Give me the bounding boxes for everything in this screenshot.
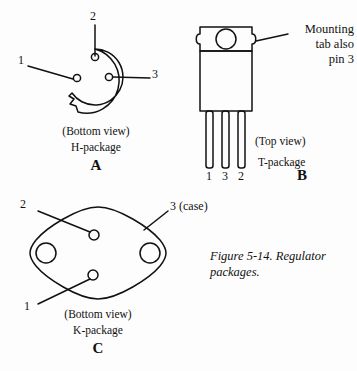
k-package-mounting-hole-right (140, 243, 160, 263)
t-package-note-line3: pin 3 (212, 52, 354, 68)
h-package-leader-3 (113, 77, 150, 78)
regulator-packages-figure: 2 1 3 (Bottom view) H-package A Mounting… (0, 0, 357, 371)
t-package-lead-2-label: 2 (238, 170, 244, 183)
t-package-lead-3 (222, 111, 229, 168)
h-package-pin-1-hole (73, 74, 80, 81)
k-package-name-label: K-package (0, 324, 196, 337)
figure-caption-line1: Figure 5-14. Regulator (210, 248, 326, 264)
t-package-note-line2: tab also (212, 37, 354, 53)
k-package-mounting-hole-left (36, 243, 56, 263)
t-package-note-line1: Mounting (212, 22, 354, 38)
k-package-pin-3-label: 3 (case) (170, 200, 208, 213)
h-package-letter: A (0, 157, 192, 174)
k-package-letter: C (0, 340, 196, 357)
h-package-pin-3-hole (105, 73, 112, 80)
h-package-drawing (28, 25, 150, 113)
k-package-pin-2-label: 2 (20, 198, 26, 211)
k-package-leader-1 (38, 279, 90, 304)
k-package-leader-3 (144, 211, 168, 230)
t-package-letter: B (297, 167, 307, 184)
figure-caption-line2: packages. (210, 264, 260, 280)
k-package-leader-2 (38, 211, 90, 232)
h-package-pin-2-label: 2 (90, 10, 96, 23)
t-package-lead-2 (238, 111, 245, 168)
t-package-view-label: (Top view) (255, 135, 306, 148)
t-package-lead-3-label: 3 (222, 170, 228, 183)
t-package-lead-1-label: 1 (206, 170, 212, 183)
k-package-drawing (30, 207, 168, 304)
h-package-view-label: (Bottom view) (0, 125, 192, 138)
h-package-name-label: H-package (0, 141, 192, 154)
h-package-pin-1-label: 1 (18, 54, 24, 67)
h-package-leader-1 (28, 66, 73, 79)
k-package-view-label: (Bottom view) (0, 308, 196, 321)
t-package-lead-1 (206, 111, 213, 168)
h-package-pin-3-label: 3 (152, 68, 158, 81)
k-package-body (30, 207, 166, 299)
